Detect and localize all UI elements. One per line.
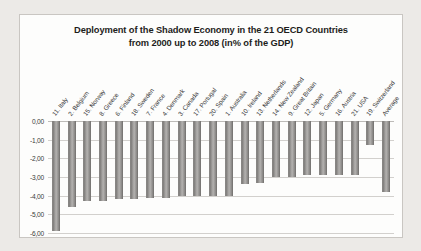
bar[interactable]	[178, 121, 186, 196]
bar-slot	[190, 121, 206, 233]
chart-frame: Deployment of the Shadow Economy in the …	[19, 14, 403, 238]
bar-slot	[252, 121, 268, 233]
bar-slot	[378, 121, 394, 233]
bar[interactable]	[335, 121, 343, 175]
bar-slot	[205, 121, 221, 233]
bar-slot	[284, 121, 300, 233]
bar-slot	[48, 121, 64, 233]
bar[interactable]	[68, 121, 76, 207]
bar[interactable]	[256, 121, 264, 183]
bar[interactable]	[52, 121, 60, 231]
bar[interactable]	[162, 121, 170, 198]
bar[interactable]	[83, 121, 91, 201]
bar[interactable]	[146, 121, 154, 198]
bar[interactable]	[272, 121, 280, 177]
bar[interactable]	[319, 121, 327, 175]
y-axis-tick-label: -3,00	[30, 174, 44, 181]
chart-title-line-2: from 2000 up to 2008 (in% of the GDP)	[28, 37, 394, 50]
bar[interactable]	[288, 121, 296, 177]
bar[interactable]	[193, 121, 201, 196]
bar-slot	[64, 121, 80, 233]
bar-slot	[347, 121, 363, 233]
bar[interactable]	[366, 121, 374, 145]
y-axis-tick-label: -1,00	[30, 136, 44, 143]
bar-slot	[95, 121, 111, 233]
bar-slot	[300, 121, 316, 233]
plot-area: 0,00-1,00-2,00-3,00-4,00-5,00-6,00	[48, 121, 394, 233]
bar[interactable]	[303, 121, 311, 175]
bar[interactable]	[209, 121, 217, 196]
bar[interactable]	[99, 121, 107, 201]
chart-title-line-1: Deployment of the Shadow Economy in the …	[74, 25, 348, 35]
bar-slot	[331, 121, 347, 233]
bar[interactable]	[130, 121, 138, 199]
bar-slot	[142, 121, 158, 233]
y-axis-tick-label: -4,00	[30, 192, 44, 199]
chart-title: Deployment of the Shadow Economy in the …	[28, 24, 394, 50]
bar-slot	[363, 121, 379, 233]
y-axis-tick-label: 0,00	[32, 118, 44, 125]
bar-slot	[237, 121, 253, 233]
y-axis-tick-label: -2,00	[30, 155, 44, 162]
bar[interactable]	[241, 121, 249, 184]
y-axis-tick-label: -6,00	[30, 230, 44, 237]
bar-slot	[268, 121, 284, 233]
bar[interactable]	[115, 121, 123, 199]
bar[interactable]	[382, 121, 390, 192]
gridline	[48, 233, 394, 234]
bar-series	[48, 121, 394, 233]
bar[interactable]	[225, 121, 233, 196]
bar-slot	[158, 121, 174, 233]
bar[interactable]	[351, 121, 359, 175]
bar-slot	[127, 121, 143, 233]
bar-slot	[221, 121, 237, 233]
bar-slot	[111, 121, 127, 233]
x-axis-tick-label: 11. Italy	[50, 96, 68, 117]
y-axis-tick-label: -5,00	[30, 211, 44, 218]
bar-slot	[315, 121, 331, 233]
bar-slot	[79, 121, 95, 233]
bar-slot	[174, 121, 190, 233]
